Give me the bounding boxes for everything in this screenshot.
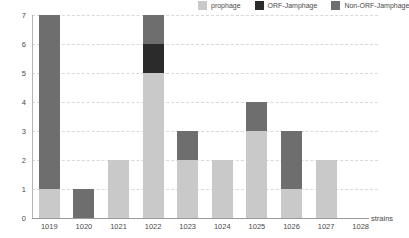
- x-axis-line: [32, 218, 369, 219]
- legend-label: ORF-Jamphage: [268, 2, 318, 9]
- bar-column[interactable]: [316, 160, 337, 218]
- x-axis-title: strains: [371, 214, 393, 223]
- bar-segment: [246, 131, 267, 218]
- legend-item-prophage[interactable]: prophage: [198, 1, 241, 10]
- bar-segment: [316, 160, 337, 218]
- x-tick-label: 1023: [179, 222, 196, 231]
- bar-column[interactable]: [143, 15, 164, 218]
- bar-column[interactable]: [39, 15, 60, 218]
- y-tick-label: 5: [0, 69, 26, 78]
- bar-column[interactable]: [177, 131, 198, 218]
- bar-segment: [281, 189, 302, 218]
- bar-segment: [73, 189, 94, 218]
- x-tick-label: 1019: [41, 222, 58, 231]
- bar-column[interactable]: [281, 131, 302, 218]
- x-tick-label: 1026: [283, 222, 300, 231]
- y-tick-label: 7: [0, 11, 26, 20]
- bar-segment: [143, 73, 164, 218]
- legend-item-orf-jamphage[interactable]: ORF-Jamphage: [255, 1, 318, 10]
- bar-column[interactable]: [212, 160, 233, 218]
- bar-segment: [143, 15, 164, 44]
- bar-segment: [212, 160, 233, 218]
- legend-swatch-icon: [331, 1, 340, 10]
- bar-segment: [39, 189, 60, 218]
- legend-swatch-icon: [198, 1, 207, 10]
- chart-legend: prophageORF-JamphageNon-ORF-Jamphage: [198, 1, 409, 10]
- legend-item-non-orf-jamphage[interactable]: Non-ORF-Jamphage: [331, 1, 409, 10]
- x-tick-label: 1024: [214, 222, 231, 231]
- y-tick-label: 0: [0, 214, 26, 223]
- bar-segment: [246, 102, 267, 131]
- legend-swatch-icon: [255, 1, 264, 10]
- bar-column[interactable]: [73, 189, 94, 218]
- plot-area: No. of prophage/jamphage: [32, 15, 378, 218]
- bar-series-group: [32, 15, 378, 218]
- legend-label: prophage: [211, 2, 241, 9]
- y-tick-label: 2: [0, 156, 26, 165]
- y-tick-label: 6: [0, 40, 26, 49]
- bar-segment: [177, 160, 198, 218]
- x-tick-label: 1028: [352, 222, 369, 231]
- bar-segment: [281, 131, 302, 189]
- x-tick-label: 1020: [76, 222, 93, 231]
- x-tick-label: 1022: [145, 222, 162, 231]
- y-axis-line: [32, 15, 33, 218]
- bar-segment: [143, 44, 164, 73]
- bar-segment: [177, 131, 198, 160]
- legend-label: Non-ORF-Jamphage: [344, 2, 409, 9]
- x-tick-label: 1021: [110, 222, 127, 231]
- y-tick-label: 3: [0, 127, 26, 136]
- x-tick-label: 1025: [249, 222, 266, 231]
- y-tick-label: 4: [0, 98, 26, 107]
- bar-column[interactable]: [246, 102, 267, 218]
- x-tick-label: 1027: [318, 222, 335, 231]
- bar-segment: [39, 15, 60, 189]
- bar-segment: [108, 160, 129, 218]
- y-tick-label: 1: [0, 185, 26, 194]
- bar-column[interactable]: [108, 160, 129, 218]
